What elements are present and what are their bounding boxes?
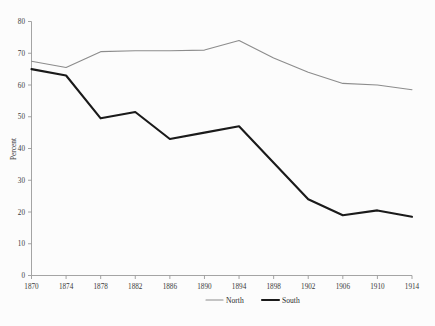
y-tick-label: 30: [18, 177, 26, 185]
y-tick-label: 40: [18, 145, 26, 153]
x-tick-label: 1898: [266, 283, 281, 291]
y-tick-label: 20: [18, 209, 26, 217]
x-tick-label: 1894: [232, 283, 247, 291]
x-tick-label: 1906: [336, 283, 351, 291]
y-tick-label: 80: [18, 18, 26, 26]
x-tick-label: 1910: [370, 283, 385, 291]
y-tick-label: 70: [18, 50, 26, 58]
line-chart-plot: 01020304050607080 Percent 18701874187818…: [0, 0, 435, 326]
x-tick-label: 1874: [59, 283, 74, 291]
plot-background: [0, 0, 435, 326]
y-tick-label: 10: [18, 240, 26, 248]
x-tick-label: 1878: [93, 283, 108, 291]
x-tick-label: 1902: [301, 283, 316, 291]
y-tick-label: 0: [21, 272, 25, 280]
chart-container: 01020304050607080 Percent 18701874187818…: [0, 0, 435, 326]
x-tick-label: 1890: [197, 283, 212, 291]
x-tick-label: 1886: [163, 283, 178, 291]
x-tick-label: 1914: [405, 283, 420, 291]
y-tick-label: 50: [18, 113, 26, 121]
legend-label-south: South: [282, 296, 300, 305]
y-tick-label: 60: [18, 82, 26, 90]
legend-label-north: North: [226, 296, 244, 305]
y-axis-title: Percent: [9, 137, 18, 160]
x-tick-label: 1870: [24, 283, 39, 291]
x-tick-label: 1882: [128, 283, 143, 291]
